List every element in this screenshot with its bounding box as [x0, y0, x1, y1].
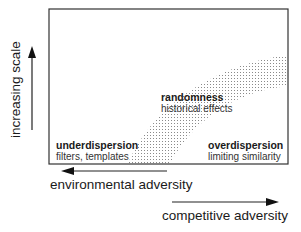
increasing-scale-arrow	[28, 46, 36, 130]
x-axis-right-label: competitive adversity	[162, 209, 288, 223]
diagram-canvas	[0, 0, 301, 232]
underdispersion-title: underdispersion	[56, 140, 138, 151]
competitive-adversity-arrow	[172, 198, 279, 206]
environmental-adversity-arrow	[61, 167, 167, 175]
underdispersion-subtitle: filters, templates	[56, 152, 129, 162]
randomness-title: randomness	[161, 92, 223, 103]
overdispersion-title: overdispersion	[208, 140, 283, 151]
randomness-subtitle: historical effects	[161, 104, 233, 114]
y-axis-label: increasing scale	[9, 41, 23, 138]
x-axis-left-label: environmental adversity	[50, 178, 193, 192]
overdispersion-subtitle: limiting similarity	[208, 152, 281, 162]
